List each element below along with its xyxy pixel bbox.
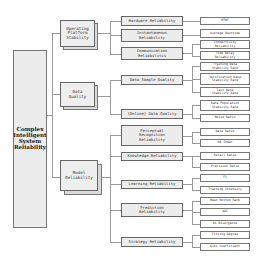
leaf-auc: AUC — [200, 208, 250, 216]
leaf-kl-divergence: KL Divergence — [200, 220, 250, 228]
leaf-label: Connectivity Reliability — [201, 41, 249, 47]
leaf-data-ratio: Data Ratio — [200, 128, 250, 136]
connector — [183, 21, 200, 22]
connector — [110, 242, 121, 243]
connector — [192, 92, 200, 93]
connector — [192, 56, 200, 57]
leaf-mean-bottom-rank: Mean Bottom Rank — [200, 197, 250, 205]
leaf-training-intensity: Training Intensity — [200, 186, 250, 194]
connector — [183, 242, 192, 243]
node-instantaneous-reliability: Instantaneous Reliability — [121, 29, 183, 42]
leaf-label: KL Divergence — [213, 222, 237, 225]
leaf-connectivity-reliability: Connectivity Reliability — [200, 40, 250, 49]
leaf-fitting-degree: Fitting Degree — [200, 231, 250, 239]
connector — [192, 167, 200, 168]
connector — [47, 115, 52, 116]
leaf-label: F1 — [223, 176, 227, 179]
leaf-label: Time Delay Reliability — [201, 52, 249, 58]
connector — [192, 201, 200, 202]
connector — [98, 33, 110, 34]
connector — [52, 94, 60, 95]
connector — [110, 135, 111, 242]
connector — [52, 33, 53, 177]
root-node: Complex Intelligent System Reliability — [13, 50, 47, 228]
node-label: (Online) Data Quality — [127, 112, 176, 116]
node-prediction-reliability: Prediction Reliability — [121, 203, 183, 217]
connector — [192, 44, 193, 56]
node-label: Model Reliability — [61, 171, 97, 180]
node-online-data-quality: (Online) Data Quality — [121, 109, 183, 119]
node-communication-reliability: Communication Reliabilitis — [121, 47, 183, 60]
connector — [110, 80, 111, 114]
connector — [192, 132, 193, 143]
connector — [192, 118, 200, 119]
leaf-label: Training Data Stability Rate — [201, 63, 249, 69]
node-label: Data Quality — [61, 90, 95, 99]
node-label: Data Sample Quality — [130, 78, 175, 82]
leaf-gini-coefficient: Gini Coefficient — [200, 243, 250, 251]
leaf-label: MTBF — [221, 19, 228, 22]
connector — [192, 178, 193, 190]
node-learning-reliability: Learning Reliability — [121, 180, 183, 189]
node-data-sample-quality: Data Sample Quality — [121, 75, 183, 85]
connector — [110, 21, 111, 54]
connector — [110, 35, 121, 36]
leaf-f1: F1 — [200, 174, 250, 182]
leaf-label: Gini Coefficient — [210, 245, 240, 248]
leaf-average-downtime: Average Downtime — [200, 29, 250, 38]
leaf-label: Training Intensity — [208, 188, 242, 191]
leaf-label: Fitting Degree — [212, 233, 238, 236]
node-operating-platform-stability: Operating Platform Stability — [60, 20, 95, 47]
leaf-mtbf: MTBF — [200, 17, 250, 25]
connector — [183, 136, 192, 137]
connector — [52, 177, 60, 178]
connector — [192, 224, 200, 225]
node-data-quality: Data Quality — [60, 82, 95, 107]
leaf-label: Average Downtime — [210, 32, 240, 35]
connector — [192, 178, 200, 179]
node-model-reliability: Model Reliability — [60, 160, 98, 191]
leaf-noise-ratio: Noise Ratio — [200, 114, 250, 122]
connector — [183, 184, 192, 185]
connector — [192, 105, 200, 106]
connector — [110, 210, 121, 211]
node-label: Prediction Reliability — [122, 206, 182, 214]
node-label: Perceptual Recognition Reliability — [122, 129, 182, 141]
node-label: Hardware Reliability — [129, 19, 176, 23]
leaf-label: Data Ratio — [216, 130, 235, 133]
connector — [183, 53, 192, 54]
connector — [183, 156, 192, 157]
connector — [110, 156, 121, 157]
leaf-label: AUC — [222, 210, 228, 213]
connector — [52, 33, 60, 34]
connector — [192, 66, 200, 67]
leaf-label: Test Data Stability Rate — [201, 89, 249, 95]
root-label: Complex Intelligent System Reliability — [12, 127, 47, 150]
connector — [110, 114, 121, 115]
connector — [183, 210, 192, 211]
leaf-test-data-stability-rate: Test Data Stability Rate — [200, 87, 250, 97]
node-label: Instantaneous Reliability — [122, 31, 182, 39]
connector — [192, 235, 200, 236]
leaf-time-delay-reliability: Time Delay Reliability — [200, 51, 250, 60]
reliability-hierarchy-diagram: Complex Intelligent System Reliability O… — [0, 0, 258, 262]
leaf-label: Noise Ratio — [215, 116, 236, 119]
node-label: Learning Reliability — [129, 182, 176, 186]
connector — [110, 80, 121, 81]
connector — [98, 96, 110, 97]
connector — [183, 114, 192, 115]
connector — [192, 190, 200, 191]
leaf-label: Mean Bottom Rank — [210, 199, 240, 202]
connector — [192, 79, 200, 80]
connector — [110, 21, 121, 22]
node-knowledge-reliability: Knowledge Reliability — [121, 152, 183, 161]
connector — [102, 177, 110, 178]
leaf-training-data-stability-rate: Training Data Stability Rate — [200, 62, 250, 71]
connector — [183, 35, 200, 36]
leaf-verification-data-stability-rate: Verification Data Stability Rate — [200, 73, 250, 85]
leaf-data-population-stability-rate: Data Population Stability Rate — [200, 100, 250, 111]
connector — [192, 156, 193, 167]
node-label: Operating Platform Stability — [61, 27, 94, 40]
node-label: Strategy Reliability — [129, 240, 176, 244]
node-strategy-reliability: Strategy Reliability — [121, 237, 183, 247]
